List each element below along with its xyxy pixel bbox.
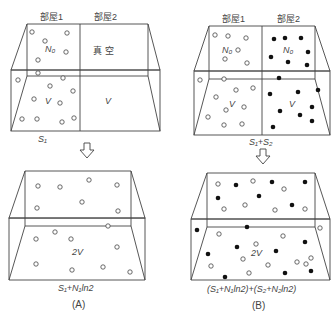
volume-label-a2: V bbox=[105, 96, 111, 106]
entropy-before-b: S₁+S₂ bbox=[249, 137, 273, 147]
caption-b: (B) bbox=[252, 300, 265, 311]
n0-label-b1: N₀ bbox=[222, 45, 232, 55]
room2-label-b: 部屋2 bbox=[277, 12, 300, 25]
panel-a-before-box bbox=[11, 24, 160, 131]
room1-label-a: 部屋1 bbox=[40, 10, 63, 23]
room2-label-a: 部屋2 bbox=[94, 10, 117, 23]
particles-b-before-filled bbox=[268, 36, 321, 130]
volume-after-a: 2V bbox=[72, 247, 83, 257]
n0-label-a: N₀ bbox=[45, 44, 55, 54]
down-arrow-icon bbox=[256, 149, 270, 164]
entropy-after-b: (S₁+N₁ln2)+(S₂+N₂ln2) bbox=[207, 284, 296, 294]
volume-label-b2: V bbox=[289, 99, 295, 109]
caption-a: (A) bbox=[72, 299, 85, 310]
entropy-before-a: S₁ bbox=[38, 134, 47, 144]
down-arrow-icon bbox=[80, 143, 94, 158]
n0-label-b2: N₀ bbox=[283, 45, 293, 55]
room1-label-b: 部屋1 bbox=[222, 12, 245, 25]
volume-label-a1: V bbox=[45, 96, 51, 106]
vacuum-label: 真 空 bbox=[93, 44, 114, 57]
panel-b-before-box bbox=[194, 26, 330, 135]
volume-label-b1: V bbox=[229, 99, 235, 109]
volume-after-b: 2V bbox=[251, 248, 262, 258]
entropy-after-a: S₁+N₁ln2 bbox=[58, 283, 93, 293]
panel-a-after-box bbox=[9, 171, 145, 280]
